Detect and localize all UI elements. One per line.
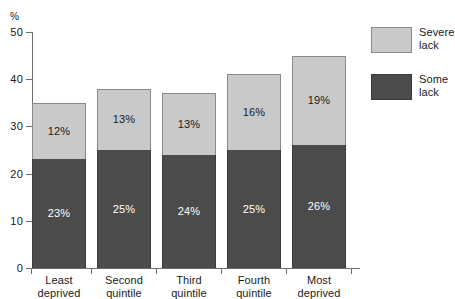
legend-label-severe-lack-line1: Severe [419,26,454,39]
bar-group[interactable]: 12%23% [32,103,86,268]
bar-segment-severe-lack[interactable]: 12% [32,103,86,160]
bar-segment-some-lack[interactable]: 23% [32,159,86,268]
y-axis-tick [26,79,32,80]
bar-value-label: 16% [243,107,266,118]
bar-value-label: 24% [178,206,201,217]
bar-value-label: 13% [178,119,201,130]
bar-segment-severe-lack[interactable]: 13% [162,93,216,154]
bar-segment-some-lack[interactable]: 24% [162,155,216,268]
bar-value-label: 19% [308,95,331,106]
x-axis-tick [31,269,32,274]
bar-group[interactable]: 13%24% [162,93,216,268]
x-axis-line [32,268,360,269]
x-axis-category-label: Mostdeprived [276,274,362,299]
bar-segment-severe-lack[interactable]: 16% [227,74,281,150]
legend-swatch-some-lack [371,74,412,100]
x-axis-category-label-line2: deprived [276,287,362,299]
bar-value-label: 12% [48,126,71,137]
bar-segment-some-lack[interactable]: 25% [97,150,151,268]
bar-group[interactable]: 13%25% [97,89,151,268]
legend-label-some-lack: Some lack [419,73,448,98]
bar-value-label: 23% [48,208,71,219]
bar-segment-severe-lack[interactable]: 19% [292,56,346,146]
legend-label-some-lack-line1: Some [419,73,448,86]
legend-swatch-severe-lack [371,27,412,53]
bar-value-label: 25% [243,204,266,215]
y-axis-unit-label: % [10,11,19,22]
y-axis-tick-label: 40 [10,73,23,85]
x-axis-category-label-line1: Most [276,274,362,287]
y-axis-tick-label: 0 [17,262,23,274]
plot-area: 01020304050 12%23%13%25%13%24%16%25%19%2… [32,32,358,268]
bar-value-label: 13% [113,114,136,125]
legend-label-severe-lack: Severe lack [419,26,454,51]
bar-segment-some-lack[interactable]: 26% [292,145,346,268]
bar-segment-severe-lack[interactable]: 13% [97,89,151,150]
bar-segment-some-lack[interactable]: 25% [227,150,281,268]
bar-value-label: 25% [113,204,136,215]
bar-value-label: 26% [308,201,331,212]
bar-group[interactable]: 19%26% [292,56,346,268]
y-axis-tick-label: 30 [10,120,23,132]
y-axis-tick-label: 20 [10,168,23,180]
bar-group[interactable]: 16%25% [227,74,281,268]
y-axis-tick [26,32,32,33]
legend-label-severe-lack-line2: lack [419,39,454,52]
stacked-bar-chart: % 01020304050 12%23%13%25%13%24%16%25%19… [0,0,455,299]
y-axis-tick-label: 10 [10,215,23,227]
y-axis-tick-label: 50 [10,26,23,38]
legend-label-some-lack-line2: lack [419,86,448,99]
